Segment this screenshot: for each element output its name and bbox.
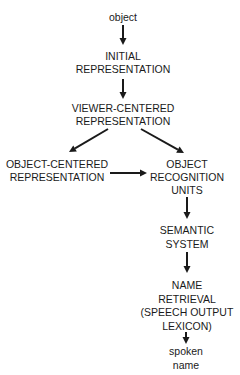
arrow-semantic-to-name [184,252,191,273]
node-oru: OBJECTRECOGNITIONUNITS [150,158,224,196]
object-recognition-diagram: objectINITIALREPRESENTATIONVIEWER-CENTER… [0,0,240,375]
node-label-line: SEMANTIC [160,224,215,236]
node-label-line: NAME [172,279,202,291]
node-label-line: LEXICON) [162,320,212,332]
arrowhead-icon [183,337,190,344]
arrow-initial-to-viewer [120,79,127,99]
node-semantic: SEMANTICSYSTEM [160,224,215,250]
arrow-object-to-initial [120,25,127,45]
node-label-line: REPRESENTATION [10,171,105,183]
node-label-line: RETRIEVAL [158,293,216,305]
node-object: object [109,11,137,23]
arrow-shaft [75,129,108,148]
node-objcentered: OBJECT-CENTEREDREPRESENTATION [6,158,109,183]
node-label-line: RECOGNITION [150,171,224,183]
node-label-line: spoken [169,345,203,357]
node-label-line: REPRESENTATION [76,115,171,127]
node-label-line: object [109,11,137,23]
arrow-viewer-to-oru [141,129,184,153]
arrowhead-icon [184,266,191,273]
node-viewer: VIEWER-CENTEREDREPRESENTATION [72,102,175,127]
node-label-line: SYSTEM [165,238,208,250]
node-label-line: OBJECT-CENTERED [6,158,109,170]
node-label-line: REPRESENTATION [76,63,171,75]
node-label-line: UNITS [171,184,203,196]
arrowhead-icon [120,92,127,99]
node-name: NAMERETRIEVAL(SPEECH OUTPUTLEXICON) [141,279,234,332]
arrowhead-icon [140,170,147,177]
arrowhead-icon [120,38,127,45]
arrow-viewer-to-objcentered [69,129,108,152]
node-label-line: name [173,359,199,371]
arrow-objcentered-to-oru [110,170,147,177]
node-label-line: OBJECT [166,158,208,170]
node-spoken: spokenname [169,345,203,371]
node-initial: INITIALREPRESENTATION [76,50,171,75]
arrow-name-to-spoken [183,332,190,344]
node-label-line: (SPEECH OUTPUT [141,306,234,318]
arrowhead-icon [184,212,191,219]
node-label-line: INITIAL [105,50,141,62]
arrow-oru-to-semantic [184,197,191,219]
node-label-line: VIEWER-CENTERED [72,102,175,114]
arrow-shaft [141,129,178,150]
